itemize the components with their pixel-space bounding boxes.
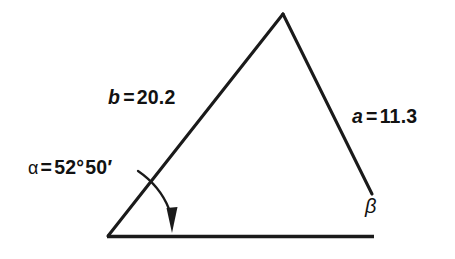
- side-a-variable: a: [352, 105, 364, 127]
- alpha-symbol: α: [28, 158, 39, 178]
- angle-alpha-degrees: 52°: [54, 156, 84, 178]
- angle-beta-label: β: [365, 196, 376, 216]
- side-b-label: b=20.2: [108, 88, 175, 108]
- angle-alpha-minutes: 50′: [84, 156, 112, 178]
- angle-alpha-equals: =: [39, 156, 55, 178]
- side-b-value: 20.2: [137, 86, 176, 108]
- triangle-figure: b=20.2 a=11.3 α=52°50′ β: [0, 0, 455, 259]
- side-a-line: [283, 14, 372, 194]
- side-b-variable: b: [108, 86, 121, 108]
- side-b-equals: =: [121, 86, 137, 108]
- angle-alpha-label: α=52°50′: [28, 158, 112, 178]
- side-a-label: a=11.3: [352, 107, 417, 127]
- angle-arc-arrowhead: [167, 207, 178, 233]
- side-b-line: [108, 14, 283, 236]
- side-a-equals: =: [364, 105, 380, 127]
- triangle-diagram-canvas: [0, 0, 455, 259]
- side-a-value: 11.3: [380, 105, 418, 127]
